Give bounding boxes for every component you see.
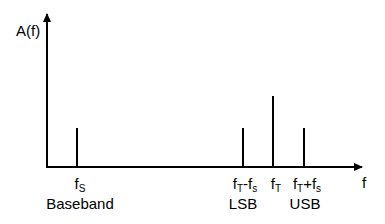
lsb-freq-label: fT-fs bbox=[233, 176, 257, 194]
spectrum-diagram bbox=[0, 0, 385, 224]
baseband-freq-label: fS bbox=[75, 176, 86, 194]
baseband-band-label: Baseband bbox=[46, 196, 114, 211]
x-axis-label: f bbox=[362, 175, 366, 190]
lsb-band-label: LSB bbox=[229, 196, 257, 211]
usb-freq-label: fT+fs bbox=[293, 176, 321, 194]
carrier-freq-label: fT bbox=[271, 176, 281, 194]
usb-band-label: USB bbox=[290, 196, 321, 211]
y-axis-label: A(f) bbox=[16, 23, 40, 38]
